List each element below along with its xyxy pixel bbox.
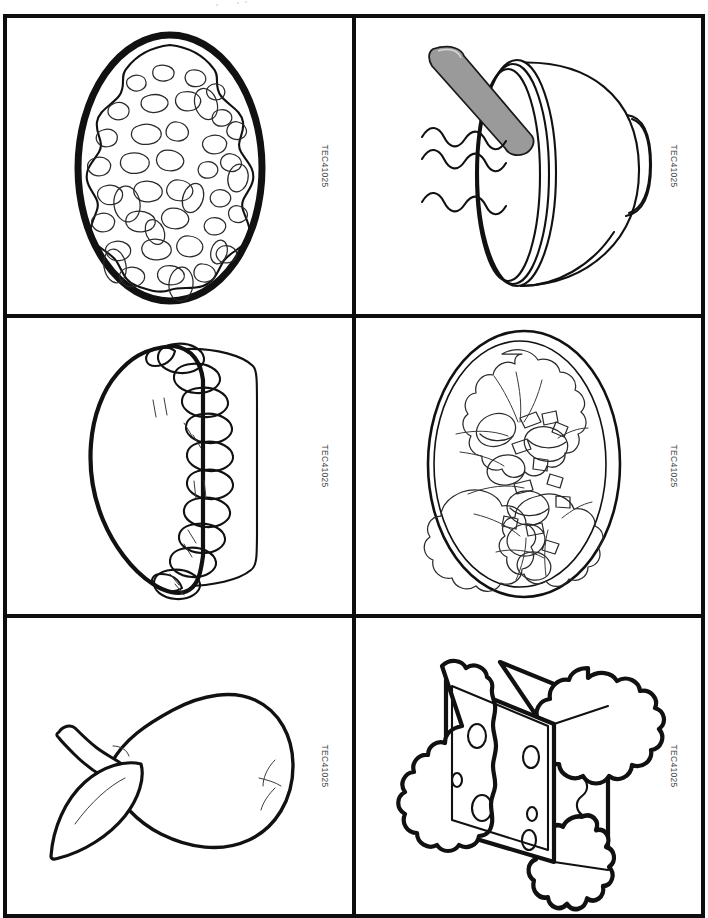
soup-bowl-icon (356, 18, 701, 314)
card-code: TEC41025 (319, 444, 329, 487)
card-grid: TEC41025 (5, 16, 703, 916)
scan-artifact (208, 0, 254, 9)
pie-icon (7, 318, 352, 614)
pizza-icon (7, 18, 352, 314)
salad-plate-icon (356, 318, 701, 614)
sandwich-icon (356, 618, 701, 914)
card-soup-bowl[interactable]: TEC41025 (352, 14, 705, 318)
card-code: TEC41025 (668, 744, 678, 787)
card-salad[interactable]: TEC41025 (352, 314, 705, 618)
card-code: TEC41025 (668, 444, 678, 487)
pear-icon (7, 618, 352, 914)
card-pie[interactable]: TEC41025 (3, 314, 356, 618)
card-code: TEC41025 (319, 744, 329, 787)
card-code: TEC41025 (668, 144, 678, 187)
card-pear[interactable]: TEC41025 (3, 614, 356, 918)
card-pizza[interactable]: TEC41025 (3, 14, 356, 318)
card-sandwich[interactable]: TEC41025 (352, 614, 705, 918)
card-code: TEC41025 (319, 144, 329, 187)
